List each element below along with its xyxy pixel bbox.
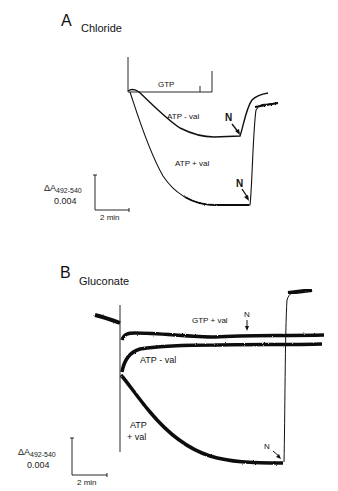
panel-a-n2-label: N xyxy=(236,178,243,189)
panel-a-atp-plus-val-trace xyxy=(130,92,278,205)
panel-b-n1-arrowhead xyxy=(245,326,249,331)
panel-a-letter: A xyxy=(61,12,72,30)
panel-a-n1-arrowhead xyxy=(235,129,240,135)
panel-a-title: Chloride xyxy=(81,22,122,34)
panel-a-scale-bar xyxy=(95,175,129,210)
panel-a-scale-time: 2 min xyxy=(100,213,120,223)
panel-b-scale-yvalue: 0.004 xyxy=(27,460,50,470)
panel-b-scale-ylabel: ΔA492-540 xyxy=(18,447,56,460)
panel-a-scale-ylabel: ΔA492-540 xyxy=(44,183,82,196)
panel-b-baseline-trace xyxy=(95,315,120,323)
panel-b-n1-label: N xyxy=(244,310,250,319)
panel-b-atp-plus-val-recovery xyxy=(284,291,298,462)
panel-b-atp-plus-val-label-2: + val xyxy=(127,432,146,442)
panel-a-n2-arrowhead xyxy=(244,195,249,201)
panel-a-n1-label: N xyxy=(225,112,232,123)
panel-b-trace-gap xyxy=(215,340,320,341)
panel-b-scale-time: 2 min xyxy=(77,478,97,488)
panel-b-scale-bar xyxy=(72,438,107,475)
panel-a-atp-plus-val-label: ATP + val xyxy=(175,159,209,168)
panel-b-atp-plus-val-recovery-noise xyxy=(288,290,312,293)
panel-a-scale-yvalue: 0.004 xyxy=(54,196,77,206)
panel-b-gtp-plus-val-label: GTP + val xyxy=(192,316,228,325)
figure-canvas xyxy=(0,0,338,491)
panel-b-title: Gluconate xyxy=(79,275,129,287)
panel-b-letter: B xyxy=(60,264,71,282)
panel-b-atp-plus-val-trace xyxy=(121,375,283,463)
panel-a-plot xyxy=(93,57,278,212)
panel-a-gtp-label: GTP xyxy=(158,80,174,89)
panel-a-atp-minus-val-label: ATP - val xyxy=(167,112,199,121)
panel-b-n2-label: N xyxy=(264,442,270,451)
panel-b-atp-minus-val-label: ATP - val xyxy=(140,355,176,365)
panel-b-atp-plus-val-label-1: ATP xyxy=(130,420,147,430)
panel-b-gtp-plus-val-trace xyxy=(122,333,324,340)
panel-a-atp-plus-val-noise xyxy=(185,197,249,205)
